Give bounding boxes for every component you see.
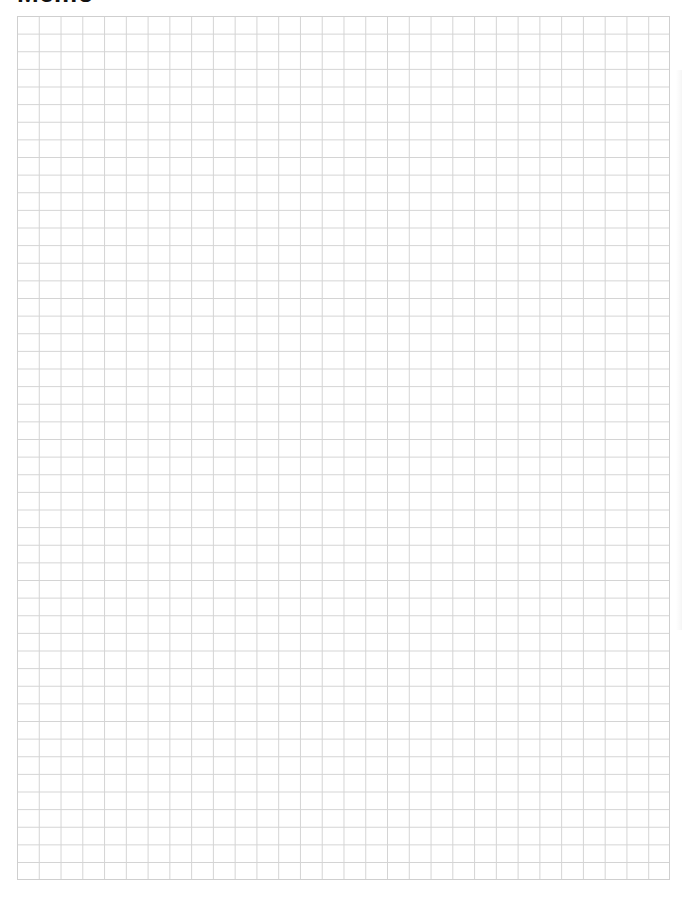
page-title: Memo [17,0,94,7]
memo-grid-writing-area[interactable] [17,16,670,880]
page-edge-shadow [676,70,682,630]
